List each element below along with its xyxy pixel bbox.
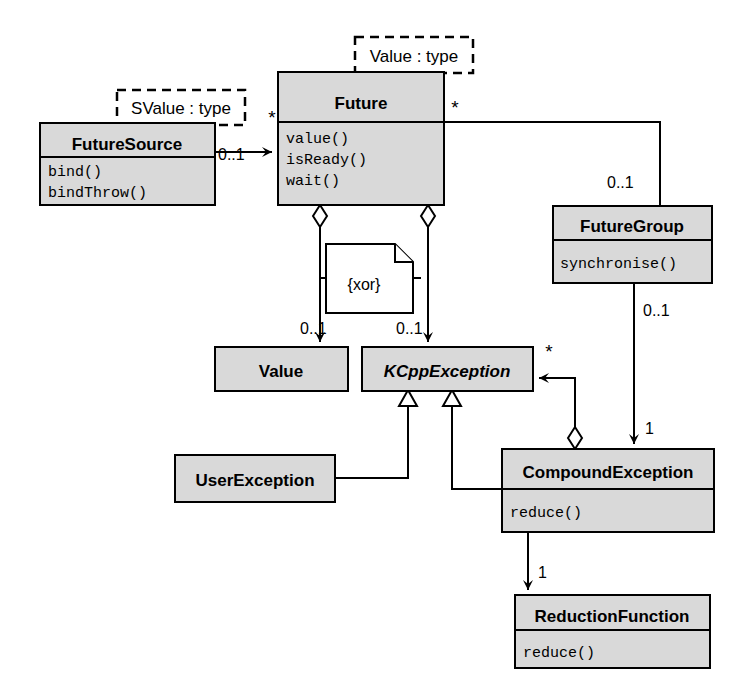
uml-class-diagram: SValue : type Value : type FutureSource … [0,0,756,696]
edge-compoundexception-generalization [443,390,502,489]
class-box-kcppexception[interactable]: KCppException [362,347,533,391]
class-name-compoundexception: CompoundException [523,463,694,482]
template-param-svalue: SValue : type [117,90,245,125]
class-name-future: Future [335,94,388,113]
class-member-reductionfunction-0: reduce() [523,645,595,662]
class-name-userexception: UserException [195,471,314,490]
class-box-userexception[interactable]: UserException [175,455,335,502]
edge-userexception-generalization [335,390,417,478]
multiplicity-future-to-futuregroup-star: * [451,97,459,118]
class-box-futuregroup[interactable]: FutureGroup synchronise() [553,206,712,283]
class-box-reductionfunction[interactable]: ReductionFunction reduce() [515,595,710,668]
multiplicity-futuregroup-to-compound: 1 [645,420,654,437]
class-name-kcppexception: KCppException [384,362,511,381]
template-param-value: Value : type [355,37,473,73]
class-member-future-0: value() [286,131,349,148]
class-member-compoundexception-0: reduce() [510,505,582,522]
class-member-futuresource-0: bind() [48,164,102,181]
class-box-value[interactable]: Value [215,347,348,391]
diagram-canvas: SValue : type Value : type FutureSource … [0,0,756,696]
multiplicity-futuregroup-upper: 0..1 [607,174,634,191]
class-member-futuresource-1: bindThrow() [48,185,147,202]
edge-future-to-kcppexception [421,205,435,342]
class-box-future[interactable]: Future value() isReady() wait() [278,72,444,205]
class-member-futuregroup-0: synchronise() [560,256,677,273]
class-name-futuregroup: FutureGroup [580,217,684,236]
class-box-compoundexception[interactable]: CompoundException reduce() [502,449,714,532]
class-member-future-2: wait() [286,173,340,190]
note-xor-label: {xor} [348,276,382,293]
multiplicity-futuregroup-lower: 0..1 [643,302,670,319]
multiplicity-future-to-value: 0..1 [300,320,327,337]
multiplicity-future-to-exception: 0..1 [396,320,423,337]
multiplicity-exception-to-compound-star: * [545,341,553,362]
edge-compoundexception-to-kcppexception [539,378,582,449]
edge-future-to-futuregroup [444,122,660,206]
multiplicity-futuresource-end: 0..1 [218,146,245,163]
class-box-futuresource[interactable]: FutureSource bind() bindThrow() [40,123,215,205]
class-name-value: Value [259,362,303,381]
class-member-future-1: isReady() [286,152,367,169]
template-param-value-label: Value : type [370,47,459,66]
class-name-futuresource: FutureSource [72,135,183,154]
class-name-reductionfunction: ReductionFunction [535,607,690,626]
multiplicity-future-target-star: * [268,107,276,128]
template-param-svalue-label: SValue : type [131,99,231,118]
multiplicity-compound-to-reduction: 1 [538,564,547,581]
note-xor: {xor} [326,244,413,313]
